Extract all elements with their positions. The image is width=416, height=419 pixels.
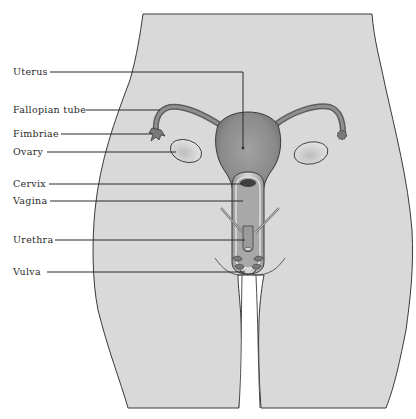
label-cervix: Cervix [13, 178, 46, 189]
right-fimbriae [338, 131, 347, 140]
label-vulva: Vulva [13, 266, 41, 277]
vagina-inner-wall [236, 177, 260, 268]
label-uterus: Uterus [13, 66, 48, 77]
urethral-opening [245, 247, 251, 251]
label-vagina: Vagina [13, 195, 47, 206]
anatomy-diagram: Uterus Fallopian tube Fimbriae Ovary Cer… [0, 0, 416, 419]
leader-uterus-dot [242, 147, 244, 149]
label-urethra: Urethra [13, 234, 53, 245]
cervix [240, 179, 256, 187]
label-fallopian-tube: Fallopian tube [13, 104, 86, 115]
anatomy-illustration [0, 0, 416, 419]
label-ovary: Ovary [13, 146, 43, 157]
label-fimbriae: Fimbriae [13, 128, 59, 139]
